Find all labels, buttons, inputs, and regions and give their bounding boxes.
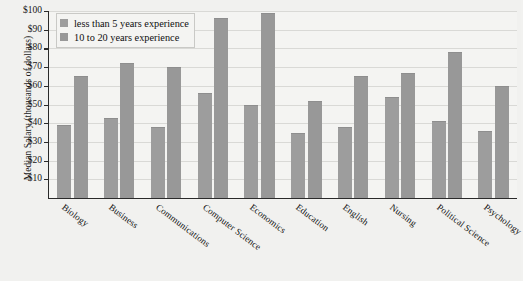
bar-psychology-series-1 (495, 86, 509, 198)
bar-computer-science-series-1 (214, 18, 228, 198)
gridline (49, 11, 517, 12)
gridline (49, 123, 517, 124)
x-axis-label-education: Education (294, 202, 331, 233)
y-axis-tick (44, 86, 49, 87)
chart-legend: less than 5 years experience 10 to 20 ye… (56, 13, 195, 48)
gridline (49, 142, 517, 143)
bar-political-science-series-0 (432, 121, 446, 198)
y-axis-tick (44, 48, 49, 49)
x-axis-line (48, 198, 517, 199)
legend-item: 10 to 20 years experience (60, 30, 189, 44)
bar-political-science-series-1 (448, 52, 462, 198)
y-axis-tick (44, 142, 49, 143)
gridline (49, 86, 517, 87)
bar-english-series-1 (354, 76, 368, 198)
bar-nursing-series-1 (401, 73, 415, 198)
bar-biology-series-0 (57, 125, 71, 198)
bar-business-series-1 (120, 63, 134, 198)
bar-communications-series-1 (167, 67, 181, 198)
x-axis-label-biology: Biology (60, 202, 91, 228)
x-axis-label-english: English (341, 202, 370, 228)
y-axis-tick-label: $20 (28, 156, 42, 166)
y-axis-tick-label: $60 (28, 81, 42, 91)
x-axis-label-psychology: Psychology (482, 202, 523, 237)
bar-education-series-1 (308, 101, 322, 198)
y-axis-tick-label: $100 (23, 6, 42, 16)
bar-english-series-0 (338, 127, 352, 198)
y-axis-tick (44, 161, 49, 162)
y-axis-tick-label: $30 (28, 137, 42, 147)
y-axis-tick-label: $10 (28, 175, 42, 185)
gridline (49, 67, 517, 68)
gridline (49, 161, 517, 162)
legend-swatch-series-1 (60, 33, 68, 41)
y-axis-tick (44, 30, 49, 31)
y-axis-tick (44, 67, 49, 68)
bar-nursing-series-0 (385, 97, 399, 198)
bar-computer-science-series-0 (198, 93, 212, 198)
y-axis-tick-label: $90 (28, 25, 42, 35)
y-axis-tick (44, 123, 49, 124)
bar-economics-series-0 (244, 105, 258, 199)
bar-psychology-series-0 (478, 131, 492, 198)
y-axis-tick-label: $70 (28, 62, 42, 72)
bar-biology-series-1 (74, 76, 88, 198)
legend-label-series-0: less than 5 years experience (74, 18, 189, 29)
x-axis-label-nursing: Nursing (388, 202, 419, 228)
x-axis-label-business: Business (107, 202, 140, 230)
y-axis-tick (44, 11, 49, 12)
y-axis-tick (44, 179, 49, 180)
bar-business-series-0 (104, 118, 118, 198)
y-axis-tick-label: $80 (28, 44, 42, 54)
gridline (49, 48, 517, 49)
legend-swatch-series-0 (60, 19, 68, 27)
bar-economics-series-1 (261, 13, 275, 198)
legend-item: less than 5 years experience (60, 16, 189, 30)
gridline (49, 105, 517, 106)
gridline (49, 179, 517, 180)
legend-label-series-1: 10 to 20 years experience (74, 32, 179, 43)
y-axis-tick (44, 105, 49, 106)
y-axis-tick-label: $50 (28, 100, 42, 110)
bar-education-series-0 (291, 133, 305, 198)
bar-communications-series-0 (151, 127, 165, 198)
x-axis-label-economics: Economics (248, 202, 288, 235)
y-axis-tick-label: $40 (28, 118, 42, 128)
